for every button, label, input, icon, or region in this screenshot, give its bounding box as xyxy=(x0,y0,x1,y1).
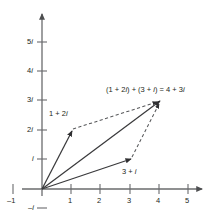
y-tick-label-i-unit: i xyxy=(32,154,34,163)
y-tick-label-4i: 4i xyxy=(27,67,33,75)
vector-label-sum-part2: ) + (3 + xyxy=(127,85,153,94)
vector-label-z2-text: 3 + xyxy=(122,167,135,176)
x-tick-label-4: 4 xyxy=(156,197,160,205)
x-tick-label-3: 3 xyxy=(127,197,131,205)
x-tick-label-2: 2 xyxy=(97,197,101,205)
x-tick-label-5: 5 xyxy=(185,197,189,205)
vector-label-z1-text: 1 + 2 xyxy=(49,109,66,118)
y-tick-label-5i: 5i xyxy=(27,38,33,46)
y-tick-label-2i-unit: i xyxy=(31,125,33,134)
y-tick-label-i: i xyxy=(32,155,34,163)
y-tick-label-neg-i-unit: i xyxy=(32,203,34,212)
dashed-vectors-group xyxy=(73,102,159,157)
x-tick-label-1: 1 xyxy=(68,197,72,205)
y-tick-label-2i: 2i xyxy=(27,126,33,134)
y-tick-label-3i: 3i xyxy=(27,96,33,104)
vector-label-sum: (1 + 2i) + (3 + i) = 4 + 3i xyxy=(106,86,185,94)
y-tick-label-4i-unit: i xyxy=(31,66,33,75)
x-tick-label-neg-1: –1 xyxy=(7,197,15,205)
y-tick-label-neg-i: –i xyxy=(28,204,34,212)
vector-label-z2-imaginary-unit: i xyxy=(135,167,137,176)
y-tick-label-5i-unit: i xyxy=(31,37,33,46)
axes-group xyxy=(22,14,202,196)
vector-label-z1: 1 + 2i xyxy=(49,110,68,118)
vector-z2-translated xyxy=(73,102,157,129)
vector-label-sum-i3: i xyxy=(183,85,185,94)
complex-plane-figure: 5i 4i 3i 2i i –i –1 1 2 3 4 5 1 + 2i 3 +… xyxy=(0,0,213,220)
vector-label-z2: 3 + i xyxy=(122,168,136,176)
vector-label-sum-part1: (1 + 2 xyxy=(106,85,125,94)
y-tick-label-3i-unit: i xyxy=(31,95,33,104)
vector-label-z1-imaginary-unit: i xyxy=(66,109,68,118)
plot-canvas xyxy=(0,0,213,220)
vector-label-sum-part3: ) = 4 + 3 xyxy=(155,85,183,94)
